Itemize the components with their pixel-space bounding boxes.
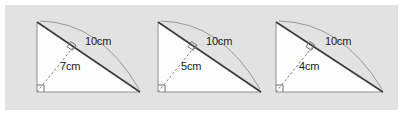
figure-stage: 10cm 7cm 10cm 5cm — [0, 0, 409, 115]
triangle-2-hypotenuse-label: 10cm — [206, 35, 232, 47]
triangle-3: 10cm 4cm — [276, 21, 383, 92]
triangle-1-altitude-label: 7cm — [60, 60, 80, 72]
triangle-1: 10cm 7cm — [37, 21, 140, 92]
triangle-3-altitude-label: 4cm — [299, 60, 319, 72]
triangle-1-hypotenuse-label: 10cm — [85, 35, 111, 47]
triangle-2: 10cm 5cm — [158, 21, 261, 92]
triangle-3-hypotenuse-label: 10cm — [325, 35, 351, 47]
diagram-screenshot: 10cm 7cm 10cm 5cm — [0, 0, 409, 115]
triangle-2-altitude-label: 5cm — [181, 60, 201, 72]
